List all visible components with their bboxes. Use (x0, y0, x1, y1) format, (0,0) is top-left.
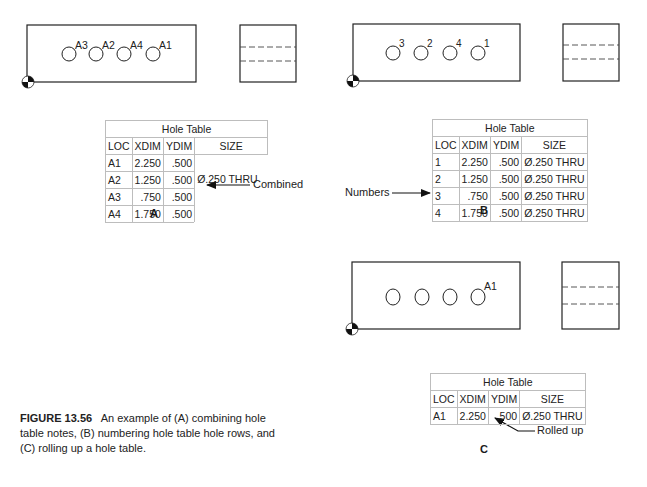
hole-table-c: Hole Table LOC XDIM YDIM SIZE A1 2.250 .… (430, 373, 586, 425)
panel-label-a: A (150, 207, 158, 219)
column-header: XDIM (132, 138, 163, 155)
cell-xdim: 2.250 (459, 154, 490, 171)
column-header: YDIM (163, 138, 194, 155)
cell-loc: A3 (106, 189, 133, 206)
cell-loc: A1 (431, 408, 458, 425)
datum-origin-icon (346, 323, 358, 335)
cell-loc: A2 (106, 172, 133, 189)
hole-tag: A1 (159, 39, 172, 51)
cell-size: Ø.250 THRU (520, 408, 586, 425)
column-header: XDIM (457, 391, 488, 408)
cell-size: Ø.250 THRU (522, 188, 588, 205)
cell-xdim: .750 (132, 189, 163, 206)
hole-tag: 2 (427, 38, 433, 49)
column-header: XDIM (459, 137, 490, 154)
panel-b-front-view (347, 24, 520, 87)
cell-size: Ø.250 THRU (522, 171, 588, 188)
table-row: 4 1.750 .500 Ø.250 THRU (433, 205, 588, 222)
cell-xdim: 2.250 (132, 155, 163, 172)
hole-tag: 3 (399, 38, 405, 49)
cell-xdim: 1.250 (132, 172, 163, 189)
cell-xdim: 1.750 (132, 206, 163, 223)
cell-xdim: .750 (459, 188, 490, 205)
cell-loc: A4 (106, 206, 133, 223)
table-row: A1 2.250 .500 Ø.250 THRU (431, 408, 586, 425)
callout-label-numbers: Numbers (345, 186, 390, 198)
cell-ydim: .500 (163, 172, 194, 189)
table-row: 2 1.250 .500 Ø.250 THRU (433, 171, 588, 188)
cell-ydim: .500 (163, 155, 194, 172)
callout-label-rolled-up: Rolled up (537, 424, 583, 436)
panel-c-front-view (346, 262, 520, 335)
panel-b-side-view (563, 24, 619, 81)
table-title: Hole Table (433, 120, 588, 137)
cell-ydim: .500 (490, 171, 521, 188)
callout-label-combined: Combined (253, 178, 303, 190)
datum-origin-icon (22, 76, 34, 88)
column-header: YDIM (490, 137, 521, 154)
cell-ydim: .500 (163, 206, 194, 223)
panel-label-c: C (480, 443, 488, 455)
datum-origin-icon (347, 75, 359, 87)
panel-c-side-view (562, 262, 619, 329)
hole-table-a: Hole Table LOC XDIM YDIM SIZE A1 2.250 .… (105, 120, 268, 223)
cell-size: Ø.250 THRU (522, 205, 588, 222)
column-header: SIZE (520, 391, 586, 408)
hole-tag: A1 (484, 280, 497, 292)
cell-ydim: .500 (163, 189, 194, 206)
cell-loc: 4 (433, 205, 460, 222)
column-header: LOC (106, 138, 133, 155)
hole-tag: 1 (484, 38, 490, 49)
column-header: SIZE (195, 138, 268, 155)
table-title: Hole Table (431, 374, 586, 391)
table-title: Hole Table (106, 121, 268, 138)
hole-tag: A2 (102, 39, 115, 51)
cell-xdim: 2.250 (457, 408, 488, 425)
cell-size: Ø.250 THRU (522, 154, 588, 171)
table-row: 3 .750 .500 Ø.250 THRU (433, 188, 588, 205)
panel-label-b: B (480, 204, 488, 216)
figure-number: FIGURE 13.56 (20, 412, 92, 424)
column-header: LOC (433, 137, 460, 154)
cell-ydim: .500 (490, 205, 521, 222)
panel-a-front-view (22, 25, 196, 88)
hole-tag: A4 (130, 39, 143, 51)
hole-tag: A3 (75, 39, 88, 51)
hole-table-b: Hole Table LOC XDIM YDIM SIZE 1 2.250 .5… (432, 119, 588, 222)
table-row: 1 2.250 .500 Ø.250 THRU (433, 154, 588, 171)
cell-loc: A1 (106, 155, 133, 172)
cell-loc: 1 (433, 154, 460, 171)
cell-loc: 3 (433, 188, 460, 205)
table-row: A1 2.250 .500 Ø.250 THRU (106, 155, 268, 172)
cell-ydim: .500 (490, 154, 521, 171)
figure-caption: FIGURE 13.56 An example of (A) combining… (20, 411, 280, 456)
column-header: LOC (431, 391, 458, 408)
cell-ydim: .500 (490, 188, 521, 205)
column-header: SIZE (522, 137, 588, 154)
cell-ydim: .500 (488, 408, 519, 425)
panel-a-side-view (240, 25, 296, 82)
cell-xdim: 1.250 (459, 171, 490, 188)
hole-tag: 4 (456, 38, 462, 49)
column-header: YDIM (488, 391, 519, 408)
cell-loc: 2 (433, 171, 460, 188)
